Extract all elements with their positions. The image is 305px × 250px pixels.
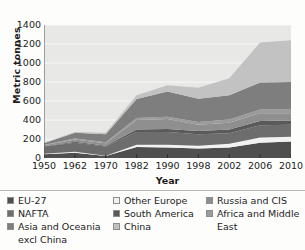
x-tick-label: 2006: [245, 160, 275, 171]
y-tick-label: 1400: [3, 20, 41, 30]
legend-label: Russia and CIS: [217, 195, 287, 206]
legend-label-continuation: excl China: [7, 234, 112, 245]
y-tick-label: 1200: [3, 39, 41, 49]
area-chart: Metric tonnes 0200400600800100012001400 …: [0, 0, 305, 188]
chart-legend: EU-27NAFTAAsia and Oceaniaexcl China Oth…: [0, 190, 305, 250]
legend-label: NAFTA: [18, 208, 48, 219]
y-axis-tick-labels: 0200400600800100012001400: [0, 0, 41, 183]
legend-label: China: [124, 221, 151, 232]
legend-swatch: [7, 210, 14, 217]
legend-item[interactable]: China: [113, 221, 205, 232]
legend-item[interactable]: Africa and Middle: [206, 208, 302, 219]
x-tick-label: 2002: [214, 160, 244, 171]
legend-item[interactable]: NAFTA: [7, 208, 112, 219]
x-axis-tick-labels: 195019621970198219901998200220062010: [40, 160, 296, 174]
legend-swatch: [7, 223, 14, 230]
x-tick-label: 1998: [183, 160, 213, 171]
x-axis-title: Year: [44, 175, 291, 186]
legend-item[interactable]: Other Europe: [113, 195, 205, 206]
legend-label: South America: [124, 208, 194, 219]
legend-swatch: [113, 210, 120, 217]
x-tick-label: 2010: [276, 160, 305, 171]
legend-item[interactable]: South America: [113, 208, 205, 219]
y-tick-label: 400: [3, 115, 41, 125]
y-tick-label: 200: [3, 134, 41, 144]
y-tick-label: 1000: [3, 58, 41, 68]
x-tick-label: 1982: [122, 160, 152, 171]
chart-figure: Metric tonnes 0200400600800100012001400 …: [0, 0, 305, 250]
legend-column: Russia and CISAfrica and MiddleEast: [206, 195, 302, 232]
legend-label: EU-27: [18, 195, 46, 206]
legend-label: Other Europe: [124, 195, 187, 206]
legend-label: Asia and Oceania: [18, 221, 101, 232]
x-tick-label: 1990: [153, 160, 183, 171]
x-tick-label: 1962: [60, 160, 90, 171]
legend-label: Africa and Middle: [217, 208, 299, 219]
legend-column: EU-27NAFTAAsia and Oceaniaexcl China: [7, 195, 112, 245]
legend-swatch: [206, 197, 213, 204]
x-tick-label: 1950: [29, 160, 59, 171]
legend-label-continuation: East: [206, 221, 302, 232]
legend-swatch: [113, 223, 120, 230]
legend-item[interactable]: EU-27: [7, 195, 112, 206]
legend-item[interactable]: Asia and Oceania: [7, 221, 112, 232]
legend-column: Other EuropeSouth AmericaChina: [113, 195, 205, 234]
legend-swatch: [113, 197, 120, 204]
stacked-area-svg: [44, 25, 291, 158]
y-tick-label: 600: [3, 96, 41, 106]
legend-swatch: [7, 197, 14, 204]
plot-area: [44, 25, 291, 158]
y-tick-label: 800: [3, 77, 41, 87]
legend-swatch: [206, 210, 213, 217]
legend-item[interactable]: Russia and CIS: [206, 195, 302, 206]
x-tick-label: 1970: [91, 160, 121, 171]
